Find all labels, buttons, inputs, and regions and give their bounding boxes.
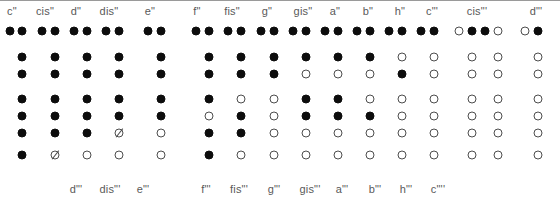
thumb-hole [321, 27, 330, 36]
tone-hole-4 [334, 95, 343, 104]
tone-hole-3 [83, 70, 92, 79]
top-note-label: b" [363, 5, 373, 17]
thumb-hole [353, 27, 362, 36]
bottom-note-label: c"'' [431, 183, 445, 195]
thumb-hole [192, 27, 201, 36]
tone-hole-5 [18, 112, 27, 121]
foot-hole [115, 151, 124, 160]
tone-hole-4 [18, 95, 27, 104]
top-note-label: c"' [426, 5, 438, 17]
top-note-label: g" [262, 5, 272, 17]
tone-hole-2 [115, 53, 124, 62]
tone-hole-1 [534, 27, 543, 36]
tone-hole-2 [157, 53, 166, 62]
tone-hole-1 [366, 27, 375, 36]
thumb-hole [224, 27, 233, 36]
fingering-chart: c"cis"d"dis"e"f"fis"g"gis"a"b"h"c"'cis"'… [0, 0, 560, 202]
tone-hole-6 [334, 129, 343, 138]
bottom-note-label: h"' [400, 183, 413, 195]
tone-hole-4 [51, 95, 60, 104]
top-note-label: cis" [36, 5, 54, 17]
thumb-hole [257, 27, 266, 36]
thumb-hole [102, 27, 111, 36]
tone-hole-2 [398, 53, 407, 62]
tone-hole-4 [205, 95, 214, 104]
tone-hole-5 [398, 112, 407, 121]
tone-hole-5 [157, 112, 166, 121]
tone-hole-5 [205, 112, 214, 121]
top-note-label: f" [193, 5, 200, 17]
top-note-label: gis" [294, 5, 313, 17]
tone-hole-1 [398, 27, 407, 36]
tone-hole-2 [366, 53, 375, 62]
tone-hole-1 [18, 27, 27, 36]
tone-hole-1 [468, 27, 477, 36]
tone-hole-2 [430, 53, 439, 62]
tone-hole-6 [494, 129, 503, 138]
foot-hole [468, 151, 477, 160]
tone-hole-6 [534, 129, 543, 138]
bottom-note-label: d"' [70, 183, 83, 195]
foot-hole [302, 151, 311, 160]
tone-hole-3 [534, 70, 543, 79]
tone-hole-4 [237, 95, 246, 104]
top-note-label: fis" [224, 5, 240, 17]
foot-hole [18, 151, 27, 160]
tone-hole-3 [157, 70, 166, 79]
tone-hole-6 [398, 129, 407, 138]
tone-hole-6 [468, 129, 477, 138]
tone-hole-3 [334, 70, 343, 79]
thumb-hole [455, 27, 464, 36]
tone-hole-5 [237, 112, 246, 121]
tone-hole-3 [237, 70, 246, 79]
tone-hole-4 [270, 95, 279, 104]
tone-hole-5 [302, 112, 311, 121]
bottom-note-label: b"' [369, 183, 382, 195]
tone-hole-5 [115, 112, 124, 121]
foot-hole [366, 151, 375, 160]
tone-hole-5 [494, 112, 503, 121]
tone-hole-6 [270, 129, 279, 138]
tone-hole-2 [494, 53, 503, 62]
top-note-label: d" [71, 5, 81, 17]
thumb-hole [38, 27, 47, 36]
tone-hole-1 [205, 27, 214, 36]
tone-hole-2 [237, 53, 246, 62]
tone-hole-6 [430, 129, 439, 138]
tone-hole-4 [534, 95, 543, 104]
tone-hole-6 [115, 129, 124, 138]
tone-hole-2 [83, 53, 92, 62]
tone-hole-2 [534, 53, 543, 62]
foot-hole [334, 151, 343, 160]
tone-hole-2 [302, 53, 311, 62]
foot-hole [430, 151, 439, 160]
tone-hole-4 [83, 95, 92, 104]
tone-hole-2 [334, 53, 343, 62]
bottom-note-label: e"' [137, 183, 150, 195]
tone-hole-4 [302, 95, 311, 104]
top-note-label: cis"' [467, 5, 487, 17]
tone-hole-4 [115, 95, 124, 104]
tone-hole-4 [366, 95, 375, 104]
bottom-note-label: g"' [268, 183, 281, 195]
tone-hole-3 [366, 70, 375, 79]
tone-hole-5 [534, 112, 543, 121]
tone-hole-5 [430, 112, 439, 121]
tone-hole-4 [157, 95, 166, 104]
tone-hole-3 [302, 70, 311, 79]
thumb-hole [144, 27, 153, 36]
tone-hole-5 [83, 112, 92, 121]
tone-hole-6 [366, 129, 375, 138]
tone-hole-3 [51, 70, 60, 79]
bottom-note-label: fis"' [230, 183, 248, 195]
thumb-hole [521, 27, 530, 36]
tone-hole-6 [83, 129, 92, 138]
tone-hole-3 [205, 70, 214, 79]
bottom-note-label: a"' [336, 183, 349, 195]
tone-hole-5 [51, 112, 60, 121]
foot-hole [494, 151, 503, 160]
tone-hole-6 [51, 129, 60, 138]
tone-hole-3 [468, 70, 477, 79]
tone-hole-6 [157, 129, 166, 138]
tone-hole-4 [430, 95, 439, 104]
